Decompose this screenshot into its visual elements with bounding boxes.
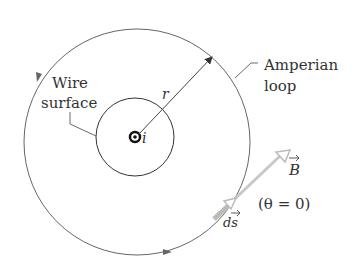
label-loop: loop bbox=[264, 77, 296, 95]
label-surface: surface bbox=[41, 94, 97, 112]
label-b: B bbox=[288, 161, 300, 179]
label-radius: r bbox=[162, 86, 170, 102]
radius-arrow bbox=[139, 57, 212, 134]
amperian-leader bbox=[235, 63, 258, 78]
label-wire: Wire bbox=[52, 74, 88, 92]
label-amperian: Amperian bbox=[263, 56, 338, 74]
loop-direction-arrow-left bbox=[36, 72, 42, 82]
label-current: i bbox=[142, 130, 146, 146]
label-ds: ds bbox=[223, 215, 238, 230]
wire-surface-leader bbox=[70, 112, 96, 136]
label-angle: (θ = 0) bbox=[258, 195, 310, 213]
current-dot bbox=[133, 135, 137, 139]
amperian-loop-diagram: Wire surface Amperian loop r i B (θ = 0)… bbox=[0, 0, 363, 260]
